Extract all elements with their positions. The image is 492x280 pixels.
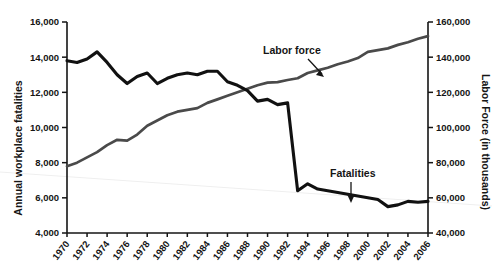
chart-container: 4,0006,0008,00010,00012,00014,00016,000 … (0, 0, 492, 280)
labor-force-annotation-label: Labor force (263, 44, 321, 56)
left-tick-label: 16,000 (30, 16, 59, 27)
left-tick-label: 8,000 (35, 157, 59, 168)
chart-background (0, 0, 492, 280)
right-tick-label: 120,000 (436, 87, 470, 98)
fatalities-annotation-label: Fatalities (330, 167, 376, 179)
right-tick-label: 140,000 (436, 52, 470, 63)
left-tick-label: 10,000 (30, 122, 59, 133)
right-tick-label: 60,000 (436, 192, 465, 203)
left-tick-label: 4,000 (35, 227, 59, 238)
right-axis-title: Labor Force (in thousands) (480, 74, 492, 210)
left-axis-title: Annual workplace fatalities (12, 80, 24, 216)
left-tick-label: 6,000 (35, 192, 59, 203)
dual-axis-line-chart: 4,0006,0008,00010,00012,00014,00016,000 … (0, 0, 492, 280)
left-tick-label: 14,000 (30, 52, 59, 63)
right-tick-label: 160,000 (436, 16, 470, 27)
right-tick-label: 100,000 (436, 122, 470, 133)
right-tick-label: 80,000 (436, 157, 465, 168)
left-tick-label: 12,000 (30, 87, 59, 98)
right-tick-label: 40,000 (436, 227, 465, 238)
